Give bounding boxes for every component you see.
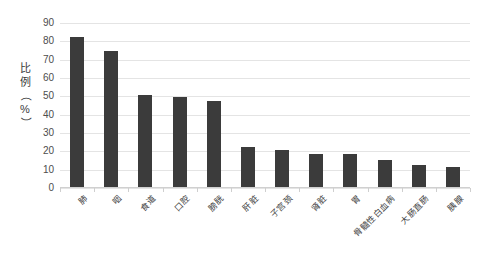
x-axis-tick-mark — [163, 188, 164, 192]
bar — [343, 154, 357, 187]
x-axis-tick-mark — [128, 188, 129, 192]
bar-series — [60, 23, 470, 188]
bar-chart: 比例（%） 9080706050403020100 肺咽食道口腔膀胱肝脏子宫颈肾… — [0, 0, 498, 260]
x-axis-tick-mark — [60, 188, 61, 192]
x-axis-tick-mark — [231, 188, 232, 192]
y-axis-tick-label: 50 — [30, 91, 54, 101]
bar — [104, 51, 118, 187]
bar — [138, 95, 152, 187]
y-axis-tick-label: 40 — [30, 110, 54, 120]
y-axis-tick-label: 60 — [30, 73, 54, 83]
plot-area — [60, 23, 470, 188]
y-axis-tick-label: 70 — [30, 55, 54, 65]
bar — [412, 165, 426, 187]
y-axis-tick-label: 0 — [30, 183, 54, 193]
y-axis-tick-label: 10 — [30, 165, 54, 175]
x-axis-category-label: 肺 — [66, 192, 89, 215]
bar — [241, 147, 255, 187]
y-axis-tick-label: 80 — [30, 36, 54, 46]
y-axis-tick-labels: 9080706050403020100 — [28, 0, 54, 260]
x-axis-category-label-text: 胃 — [348, 192, 363, 207]
x-axis-tick-mark — [436, 188, 437, 192]
bar — [70, 37, 84, 187]
x-axis-category-label-text: 咽 — [109, 192, 124, 207]
x-axis-tick-mark — [197, 188, 198, 192]
x-axis-category-label-text: 肺 — [75, 192, 90, 207]
x-axis-category-label-text: 膀胱 — [205, 192, 226, 213]
x-axis-category-label-text: 胰腺 — [444, 192, 465, 213]
bar — [446, 167, 460, 187]
bar — [309, 154, 323, 187]
x-axis-category-label-text: 口腔 — [171, 192, 192, 213]
x-axis-tick-mark — [333, 188, 334, 192]
y-axis-tick-label: 90 — [30, 18, 54, 28]
bar — [207, 101, 221, 187]
bar — [378, 160, 392, 188]
x-axis-category-label-text: 食道 — [137, 192, 158, 213]
x-axis-category-labels: 肺咽食道口腔膀胱肝脏子宫颈肾脏胃骨髓性白血病大肠直肠胰腺 — [60, 192, 470, 260]
bar — [173, 97, 187, 187]
y-axis-tick-label: 20 — [30, 146, 54, 156]
y-axis-tick-label: 30 — [30, 128, 54, 138]
x-axis-tick-mark — [265, 188, 266, 192]
x-axis-tick-mark — [94, 188, 95, 192]
x-axis-tick-mark — [470, 188, 471, 192]
x-axis-tick-mark — [402, 188, 403, 192]
x-axis-tick-mark — [299, 188, 300, 192]
x-axis-category-label-text: 肝脏 — [239, 192, 260, 213]
bar — [275, 150, 289, 187]
x-axis-category-label-text: 子宫颈 — [267, 192, 295, 220]
x-axis-tick-mark — [368, 188, 369, 192]
x-axis-category-label-text: 肾脏 — [308, 192, 329, 213]
